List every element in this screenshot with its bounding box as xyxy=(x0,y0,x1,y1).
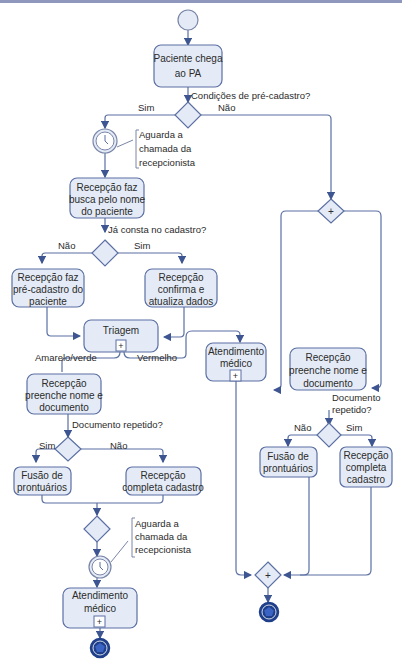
question-condicoes: Condições de pré-cadastro? xyxy=(191,90,310,101)
task-label: atualiza dados xyxy=(149,296,214,307)
svg-text:+: + xyxy=(118,341,123,351)
task-paciente-chega[interactable]: Paciente chega ao PA xyxy=(154,45,223,87)
exclusive-gateway[interactable] xyxy=(55,437,81,461)
end-event[interactable] xyxy=(260,603,279,622)
task-label: prontuários xyxy=(263,463,313,474)
task-label: do paciente xyxy=(81,206,133,217)
task-label: Fusão de xyxy=(267,451,309,462)
branch-label-amarelo-verde: Amarelo/verde xyxy=(35,352,97,363)
task-label: cadastro xyxy=(347,474,386,485)
plus-icon: + xyxy=(116,340,126,351)
exclusive-gateway[interactable] xyxy=(84,516,110,542)
task-label: Atendimento xyxy=(72,590,129,601)
question-doc-repetido-right: Documento xyxy=(332,392,381,403)
task-fusao-right[interactable]: Fusão de prontuários xyxy=(260,447,317,477)
branch-label-nao: Não xyxy=(58,240,75,251)
task-label: prontuários xyxy=(17,482,67,493)
exclusive-gateway[interactable] xyxy=(92,240,118,266)
task-preenche-left[interactable]: Recepção preenche nome e documento xyxy=(25,374,103,414)
task-completa-right[interactable]: Recepção completa cadastro xyxy=(340,447,392,487)
task-label: Recepção xyxy=(305,352,350,363)
task-completa-left[interactable]: Recepção completa cadastro xyxy=(122,467,204,495)
branch-label-sim: Sim xyxy=(138,102,154,113)
branch-label-sim: Sim xyxy=(346,422,362,433)
svg-text:recepcionista: recepcionista xyxy=(139,157,196,168)
task-label: médico xyxy=(220,358,253,369)
task-label: Paciente chega xyxy=(154,53,223,64)
task-label: completa xyxy=(346,462,387,473)
task-triagem[interactable]: Triagem + xyxy=(84,320,158,352)
task-label: Recepção xyxy=(343,450,388,461)
task-label: confirma e xyxy=(158,284,205,295)
branch-label-sim: Sim xyxy=(134,240,150,251)
annotation-aguarda-2: Aguarda a chamada da recepcionista xyxy=(135,518,192,555)
task-label: documento xyxy=(39,402,89,413)
task-atendimento-mid[interactable]: Atendimento médico + xyxy=(206,343,266,381)
exclusive-gateway[interactable] xyxy=(317,423,341,447)
plus-icon: + xyxy=(265,570,271,581)
task-label: ao PA xyxy=(175,68,202,79)
task-preenche-right[interactable]: Recepção preenche nome e documento xyxy=(289,348,367,390)
svg-text:chamada da: chamada da xyxy=(139,143,192,154)
branch-label-nao: Não xyxy=(110,440,127,451)
branch-label-nao: Não xyxy=(218,102,235,113)
branch-label-sim: Sim xyxy=(39,440,55,451)
exclusive-gateway[interactable] xyxy=(175,102,201,128)
clock-icon xyxy=(93,129,117,153)
question-ja-consta: Já consta no cadastro? xyxy=(108,224,206,235)
task-label: preenche nome e xyxy=(25,390,103,401)
svg-text:Aguarda a: Aguarda a xyxy=(139,129,184,140)
task-label: documento xyxy=(303,378,353,389)
end-event[interactable] xyxy=(91,639,110,658)
task-pre-cadastro[interactable]: Recepção faz pré-cadastro do paciente xyxy=(12,269,84,307)
question-doc-repetido-right: repetido? xyxy=(332,404,372,415)
task-label: pré-cadastro do xyxy=(13,284,83,295)
svg-text:recepcionista: recepcionista xyxy=(135,544,192,555)
branch-label-vermelho: Vermelho xyxy=(137,352,177,363)
start-event[interactable] xyxy=(178,10,198,30)
svg-text:Aguarda a: Aguarda a xyxy=(135,518,180,529)
task-label: Recepção faz xyxy=(17,272,78,283)
task-label: completa cadastro xyxy=(122,482,204,493)
task-label: preenche nome e xyxy=(289,365,367,376)
question-doc-repetido-left: Documento repetido? xyxy=(72,419,163,430)
plus-icon: + xyxy=(94,616,105,627)
task-label: médico xyxy=(84,603,117,614)
task-label: paciente xyxy=(29,296,67,307)
annotation-aguarda-1: Aguarda a chamada da recepcionista xyxy=(139,129,196,168)
task-fusao-left[interactable]: Fusão de prontuários xyxy=(14,467,71,495)
clock-icon xyxy=(89,556,111,578)
task-label: Recepção faz xyxy=(76,182,137,193)
task-atendimento-left[interactable]: Atendimento médico + xyxy=(63,588,137,628)
task-label: Fusão de xyxy=(21,470,63,481)
svg-text:+: + xyxy=(97,617,102,627)
task-label: Recepção xyxy=(41,378,86,389)
task-busca-nome[interactable]: Recepção faz busca pelo nome do paciente xyxy=(69,178,146,218)
task-label: Recepção xyxy=(140,470,185,481)
svg-text:+: + xyxy=(233,371,238,381)
task-label: Triagem xyxy=(103,325,139,336)
task-label: Atendimento xyxy=(208,346,265,357)
task-label: busca pelo nome xyxy=(69,194,146,205)
plus-icon: + xyxy=(328,206,334,217)
task-label: Recepção xyxy=(158,272,203,283)
branch-label-nao: Não xyxy=(294,422,311,433)
svg-text:chamada da: chamada da xyxy=(135,531,188,542)
plus-icon: + xyxy=(230,370,241,381)
task-confirma[interactable]: Recepção confirma e atualiza dados xyxy=(145,269,217,307)
process-diagram: Paciente chega ao PA Condições de pré-ca… xyxy=(0,0,402,663)
